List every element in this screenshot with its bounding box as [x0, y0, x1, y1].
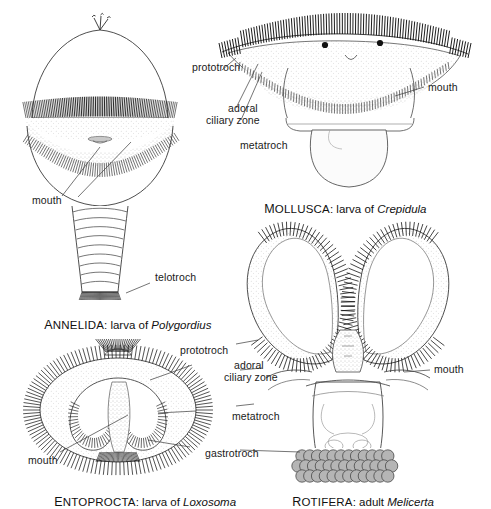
caption-annelida: ANNELIDA: larva of Polygordius	[32, 306, 211, 344]
eyespot-right	[377, 40, 383, 46]
illustration-canvas	[0, 0, 491, 509]
caption-annelida-species: Polygordius	[151, 319, 211, 331]
label-mouth-entoprocta: mouth	[28, 455, 58, 467]
label-adoral-line2-upper: ciliary zone	[206, 115, 260, 127]
annelida-larva-drawing	[23, 13, 179, 300]
label-mouth-mollusca: mouth	[428, 82, 458, 94]
telotroch-cilia-annelida	[79, 292, 121, 300]
label-metatroch-lower: metatroch	[232, 411, 280, 423]
label-adoral-line2-lower: ciliary zone	[224, 372, 278, 384]
caption-mollusca: MOLLUSCA: larva of Crepidula	[252, 190, 427, 228]
caption-annelida-taxon: NNELIDA	[53, 319, 104, 331]
caption-mollusca-initial: M	[264, 202, 275, 216]
caption-entoprocta-species: Loxosoma	[183, 496, 236, 508]
label-prototroch-lower: prototroch	[180, 345, 228, 357]
caption-entoprocta-connector: : larva of	[136, 496, 183, 508]
caption-rotifera-connector: : adult	[353, 496, 388, 508]
caption-mollusca-species: Crepidula	[377, 203, 426, 215]
caption-annelida-initial: A	[44, 318, 53, 332]
label-adoral-line1-lower: adoral	[234, 360, 264, 372]
label-adoral-line1-upper: adoral	[228, 103, 258, 115]
label-metatroch-upper: metatroch	[240, 140, 288, 152]
eyespot-left	[322, 42, 328, 48]
label-telotroch-annelida: telotroch	[155, 272, 196, 284]
label-mouth-rotifera: mouth	[434, 364, 464, 376]
mollusca-larva-drawing	[219, 13, 471, 187]
comparative-larvae-figure: prototroch adoral ciliary zone metatroch…	[0, 0, 491, 509]
caption-rotifera-species: Melicerta	[387, 496, 434, 508]
caption-mollusca-connector: : larva of	[330, 203, 377, 215]
caption-rotifera: ROTIFERA: adult Melicerta	[280, 483, 434, 509]
caption-entoprocta: ENTOPROCTA: larva of Loxosoma	[42, 483, 236, 509]
caption-entoprocta-initial: E	[54, 495, 63, 509]
label-mouth-annelida: mouth	[32, 195, 62, 207]
caption-mollusca-taxon: OLLUSCA	[275, 203, 330, 215]
label-gastrotroch-entoprocta: gastrotroch	[205, 448, 259, 460]
rotifera-adult-drawing	[236, 222, 449, 483]
pellet-tube-rotifera	[292, 448, 398, 482]
caption-rotifera-taxon: OTIFERA	[301, 496, 352, 508]
label-prototroch-upper: prototroch	[192, 62, 240, 74]
caption-entoprocta-taxon: NTOPROCTA	[63, 496, 136, 508]
caption-annelida-connector: : larva of	[104, 319, 151, 331]
